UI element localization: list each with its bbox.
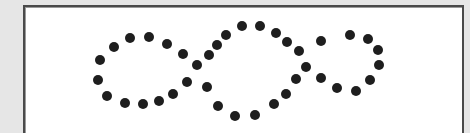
- dot: [271, 28, 281, 38]
- dot: [102, 91, 112, 101]
- dot: [230, 111, 240, 121]
- dot: [213, 101, 223, 111]
- dot: [192, 60, 202, 70]
- dot: [269, 99, 279, 109]
- dot: [162, 39, 172, 49]
- dot: [138, 99, 148, 109]
- dot: [294, 46, 304, 56]
- dot: [120, 98, 130, 108]
- dot: [365, 75, 375, 85]
- dot: [125, 33, 135, 43]
- dot: [363, 34, 373, 44]
- dot: [212, 40, 222, 50]
- dot: [202, 82, 212, 92]
- dot: [250, 110, 260, 120]
- dot: [345, 30, 355, 40]
- dotted-loops-drawing: [0, 0, 470, 133]
- dot: [281, 89, 291, 99]
- dot: [144, 32, 154, 42]
- dot: [374, 60, 384, 70]
- dot: [291, 74, 301, 84]
- dot: [316, 36, 326, 46]
- dot: [154, 96, 164, 106]
- dot: [93, 75, 103, 85]
- dot: [351, 86, 361, 96]
- dot: [282, 37, 292, 47]
- dot: [237, 21, 247, 31]
- dot: [178, 49, 188, 59]
- dot: [301, 62, 311, 72]
- dot: [109, 42, 119, 52]
- dot: [316, 73, 326, 83]
- dot: [373, 45, 383, 55]
- dot-group: [93, 21, 384, 121]
- dot: [332, 83, 342, 93]
- dot: [221, 30, 231, 40]
- dot: [255, 21, 265, 31]
- dot: [168, 89, 178, 99]
- dot: [95, 55, 105, 65]
- dot: [204, 50, 214, 60]
- dot: [182, 77, 192, 87]
